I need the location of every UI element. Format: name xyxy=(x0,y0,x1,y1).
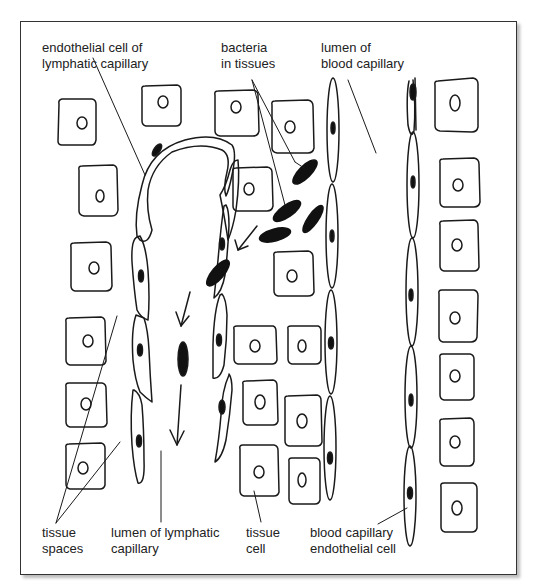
label-line: endothelial cell xyxy=(310,541,396,557)
label-line: tissue xyxy=(42,525,83,541)
label-line: blood capillary xyxy=(310,525,396,541)
label-line: lumen of xyxy=(321,40,404,56)
label-bacteria: bacteria in tissues xyxy=(221,40,275,72)
tissue-cell xyxy=(142,85,181,126)
blood-capillary xyxy=(324,78,419,546)
label-line: in tissues xyxy=(221,56,275,72)
label-line: endothelial cell of xyxy=(42,40,148,56)
tissue-cell xyxy=(243,380,278,425)
tissue-cell xyxy=(58,99,96,145)
label-line: cell xyxy=(246,541,280,557)
tissue-cell xyxy=(240,445,279,496)
tissue-cell xyxy=(71,242,112,291)
tissue-cell xyxy=(234,326,277,364)
lymphatic-capillary xyxy=(131,137,238,483)
label-line: capillary xyxy=(111,541,219,557)
tissue-cell xyxy=(272,100,314,153)
label-line: lymphatic capillary xyxy=(42,56,148,72)
label-blood-endothelial: blood capillary endothelial cell xyxy=(310,525,396,557)
tissue-cell xyxy=(215,90,259,136)
label-tissue-cell: tissue cell xyxy=(246,525,280,557)
label-line: spaces xyxy=(42,541,83,557)
label-tissue-spaces: tissue spaces xyxy=(42,525,83,557)
bacteria-arrow-icon xyxy=(235,226,257,250)
label-line: blood capillary xyxy=(321,56,404,72)
tissue-cell xyxy=(439,290,478,342)
tissue-cell xyxy=(289,458,320,504)
tissue-cell xyxy=(441,483,477,532)
tissue-cell xyxy=(274,251,314,296)
label-endothelial-lymphatic: endothelial cell of lymphatic capillary xyxy=(42,40,148,72)
tissue-cell xyxy=(66,317,106,365)
lymphatic-diagram xyxy=(0,0,541,587)
tissue-cell xyxy=(288,326,321,364)
tissue-cell xyxy=(440,220,479,271)
tissue-cell xyxy=(285,395,322,446)
label-lumen-lymphatic: lumen of lymphatic capillary xyxy=(111,525,219,557)
tissue-cell xyxy=(66,443,105,489)
tissue-cell xyxy=(440,158,480,207)
label-lumen-blood: lumen of blood capillary xyxy=(321,40,404,72)
tissue-cell xyxy=(440,418,474,466)
tissue-cell xyxy=(435,78,478,132)
tissue-cell xyxy=(79,165,118,216)
label-line: lumen of lymphatic xyxy=(111,525,219,541)
tissue-cell xyxy=(440,354,474,400)
label-line: bacteria xyxy=(221,40,275,56)
label-line: tissue xyxy=(246,525,280,541)
